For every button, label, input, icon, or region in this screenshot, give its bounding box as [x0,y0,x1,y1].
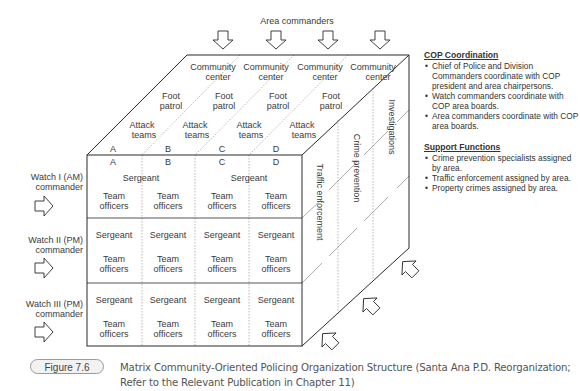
support-functions-heading: Support Functions [424,142,580,152]
cop-coordination-heading: COP Coordination [424,50,580,60]
svg-text:officers: officers [208,264,237,274]
svg-text:Sergeant: Sergeant [258,230,295,240]
svg-text:Sergeant: Sergeant [204,230,241,240]
svg-text:Team: Team [157,191,179,201]
list-item: Crime prevention specialists assigned by… [424,153,580,173]
arrow-right-icon [35,322,53,342]
svg-text:center: center [258,72,283,82]
svg-text:teams: teams [292,130,317,140]
svg-text:Sergeant: Sergeant [150,295,187,305]
svg-text:officers: officers [262,201,291,211]
svg-text:Community: Community [297,62,343,72]
svg-text:officers: officers [154,201,183,211]
svg-text:Community: Community [190,62,236,72]
svg-text:teams: teams [239,130,264,140]
figure-label: Figure 7.6 [30,359,104,374]
area-commanders-label: Area commanders [260,16,334,26]
svg-text:Team: Team [103,191,125,201]
svg-text:Team: Team [265,319,287,329]
svg-text:commander: commander [35,245,83,255]
caption-text: Matrix Community-Oriented Policing Organ… [120,360,580,390]
top-face-area-letters: A B C D [110,144,280,154]
svg-text:Sergeant: Sergeant [96,230,133,240]
svg-text:Sergeant: Sergeant [96,295,133,305]
svg-text:B: B [165,144,171,154]
side-face-labels: Traffic enforcement Crime prevention Inv… [315,99,397,241]
svg-text:Team: Team [211,319,233,329]
arrow-down-icon [266,31,286,49]
svg-text:commander: commander [35,309,83,319]
svg-text:officers: officers [100,329,129,339]
front-face-grid [87,155,302,346]
svg-text:Team: Team [265,254,287,264]
svg-text:center: center [312,72,337,82]
svg-text:Team: Team [157,254,179,264]
svg-text:Foot: Foot [215,91,234,101]
support-function-arrows [316,255,423,354]
cop-coordination-list: Chief of Police and Division Commanders … [424,61,580,131]
svg-text:Sergeant: Sergeant [204,295,241,305]
svg-text:commander: commander [35,182,83,192]
svg-text:A: A [110,157,116,167]
svg-text:Foot: Foot [162,91,181,101]
top-face-row-foot-patrol: Foot patrol Foot patrol Foot patrol Foot… [160,91,343,111]
svg-text:Attack: Attack [289,120,315,130]
svg-text:C: C [219,157,226,167]
watch-2-label: Watch II (PM) [28,235,83,245]
svg-text:Community: Community [243,62,289,72]
svg-text:officers: officers [100,264,129,274]
area-commander-arrows [213,31,390,49]
svg-text:Attack: Attack [236,120,262,130]
arrow-down-icon [213,31,233,49]
svg-text:Sergeant: Sergeant [123,173,160,183]
svg-text:Community: Community [350,62,396,72]
svg-text:patrol: patrol [320,101,343,111]
svg-text:patrol: patrol [213,101,236,111]
top-face-row-attack-teams: Attack teams Attack teams Attack teams A… [129,120,316,140]
svg-text:A: A [110,144,116,154]
svg-text:Team: Team [211,254,233,264]
svg-text:C: C [219,144,226,154]
svg-text:D: D [273,144,280,154]
list-item: Area commanders coordinate with COP area… [424,111,580,131]
list-item: Watch commanders coordinate with COP are… [424,91,580,111]
svg-text:officers: officers [208,329,237,339]
svg-text:Attack: Attack [129,120,155,130]
svg-text:Team: Team [157,319,179,329]
watch-3-label: Watch III (PM) [26,299,83,309]
crime-prevention-label: Crime prevention [352,134,362,203]
svg-text:D: D [273,157,280,167]
svg-text:officers: officers [154,264,183,274]
watch-1-label: Watch I (AM) [31,172,83,182]
arrow-up-left-icon [357,292,384,319]
svg-text:officers: officers [262,264,291,274]
svg-text:center: center [205,72,230,82]
svg-text:Foot: Foot [322,91,341,101]
svg-text:teams: teams [132,130,157,140]
arrow-down-icon [370,31,390,49]
investigations-label: Investigations [387,99,397,155]
svg-text:officers: officers [154,329,183,339]
list-item: Property crimes assigned by area. [424,183,580,193]
svg-text:center: center [365,72,390,82]
svg-text:officers: officers [208,201,237,211]
side-panel: COP Coordination Chief of Police and Div… [424,50,580,204]
arrow-right-icon [35,258,53,278]
traffic-enforcement-label: Traffic enforcement [315,163,325,241]
svg-text:patrol: patrol [160,101,183,111]
arrow-up-left-icon [396,255,423,282]
list-item: Chief of Police and Division Commanders … [424,61,580,91]
svg-text:Sergeant: Sergeant [150,230,187,240]
arrow-down-icon [318,31,338,49]
svg-text:patrol: patrol [267,101,290,111]
support-functions-list: Crime prevention specialists assigned by… [424,153,580,193]
svg-text:Sergeant: Sergeant [258,295,295,305]
top-face-row-community-center: Community center Community center Commun… [190,62,396,82]
list-item: Traffic enforcement assigned by area. [424,173,580,183]
svg-text:Sergeant: Sergeant [231,173,268,183]
svg-text:Team: Team [103,319,125,329]
svg-text:Attack: Attack [182,120,208,130]
svg-text:B: B [165,157,171,167]
svg-text:officers: officers [100,201,129,211]
svg-text:Team: Team [211,191,233,201]
